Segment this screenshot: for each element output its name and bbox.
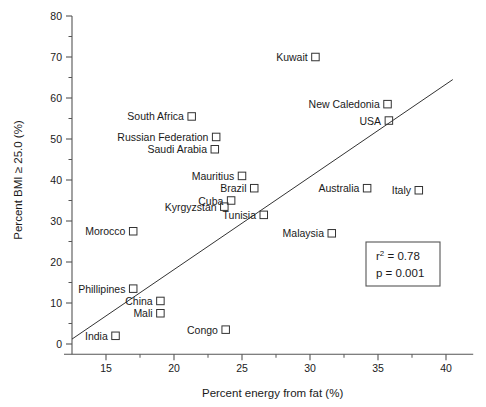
- data-point: Australia: [319, 182, 371, 194]
- data-point: Phillipines: [78, 283, 137, 295]
- point-label: Kuwait: [276, 51, 308, 63]
- point-marker-square: [129, 228, 137, 236]
- point-marker-square: [384, 100, 392, 108]
- p-value-text: p = 0.001: [376, 267, 424, 279]
- point-label: New Caledonia: [309, 98, 380, 110]
- point-marker-square: [260, 211, 268, 219]
- data-point: Kuwait: [276, 51, 319, 63]
- y-tick-label: 50: [50, 133, 62, 145]
- data-point: Saudi Arabia: [148, 143, 219, 155]
- data-points: KuwaitNew CaledoniaUSASouth AfricaRussia…: [78, 51, 422, 342]
- data-point: Italy: [392, 184, 423, 196]
- point-label: Malaysia: [283, 227, 325, 239]
- data-point: Morocco: [85, 225, 137, 237]
- y-tick-label: 20: [50, 256, 62, 268]
- point-label: USA: [360, 115, 382, 127]
- x-tick-label: 30: [304, 362, 316, 374]
- data-point: Malaysia: [283, 227, 336, 239]
- y-tick-label: 80: [50, 10, 62, 22]
- y-tick-label: 60: [50, 92, 62, 104]
- point-marker-square: [212, 133, 220, 141]
- point-label: Mali: [133, 307, 152, 319]
- y-tick-label: 30: [50, 215, 62, 227]
- point-label: Phillipines: [78, 283, 125, 295]
- point-label: Congo: [187, 324, 218, 336]
- y-axis-title: Percent BMI ≥ 25.0 (%): [12, 120, 24, 240]
- x-tick-label: 25: [236, 362, 248, 374]
- data-point: Mauritius: [192, 170, 246, 182]
- point-label: Tunisia: [223, 209, 257, 221]
- x-tick-label: 40: [440, 362, 452, 374]
- point-marker-square: [328, 230, 336, 238]
- scatter-plot-figure: 01020304050607080152025303540 KuwaitNew …: [0, 0, 486, 407]
- point-marker-square: [157, 310, 165, 318]
- point-marker-square: [250, 184, 257, 192]
- x-tick-label: 20: [168, 362, 180, 374]
- point-marker-square: [112, 332, 120, 340]
- point-label: Australia: [319, 182, 360, 194]
- point-marker-square: [211, 146, 219, 154]
- y-tick-label: 70: [50, 51, 62, 63]
- data-point: Brazil: [220, 182, 258, 194]
- data-point: USA: [360, 115, 393, 127]
- point-label: Mauritius: [192, 170, 235, 182]
- r-squared-text: r2 = 0.78: [376, 249, 420, 262]
- point-label: India: [85, 330, 108, 342]
- point-marker-square: [312, 53, 320, 61]
- data-point: Tunisia: [223, 209, 268, 221]
- point-marker-square: [157, 297, 165, 305]
- point-label: China: [125, 295, 153, 307]
- data-point: Congo: [187, 324, 229, 336]
- point-label: Italy: [392, 184, 412, 196]
- data-point: Russian Federation: [117, 131, 220, 143]
- point-marker-square: [222, 326, 230, 334]
- point-label: Russian Federation: [117, 131, 208, 143]
- point-label: Saudi Arabia: [148, 143, 208, 155]
- x-axis-title: Percent energy from fat (%): [202, 387, 343, 399]
- data-point: New Caledonia: [309, 98, 392, 110]
- point-marker-square: [188, 113, 196, 121]
- point-label: Kyrgyzstan: [165, 201, 217, 213]
- point-label: Morocco: [85, 225, 125, 237]
- data-point: Mali: [133, 307, 164, 319]
- point-marker-square: [129, 285, 137, 293]
- data-point: India: [85, 330, 119, 342]
- point-label: Brazil: [220, 182, 246, 194]
- x-tick-label: 35: [372, 362, 384, 374]
- y-tick-label: 10: [50, 297, 62, 309]
- point-marker-square: [363, 184, 371, 192]
- data-point: China: [125, 295, 164, 307]
- y-tick-label: 0: [56, 338, 62, 350]
- statistics-box: r2 = 0.78p = 0.001: [366, 242, 440, 286]
- point-marker-square: [415, 187, 423, 195]
- point-marker-square: [238, 172, 246, 180]
- stats-box-border: [366, 242, 440, 286]
- data-point: South Africa: [127, 110, 195, 122]
- plot-canvas: 01020304050607080152025303540 KuwaitNew …: [0, 0, 486, 407]
- point-label: South Africa: [127, 110, 184, 122]
- y-tick-label: 40: [50, 174, 62, 186]
- x-tick-label: 15: [100, 362, 112, 374]
